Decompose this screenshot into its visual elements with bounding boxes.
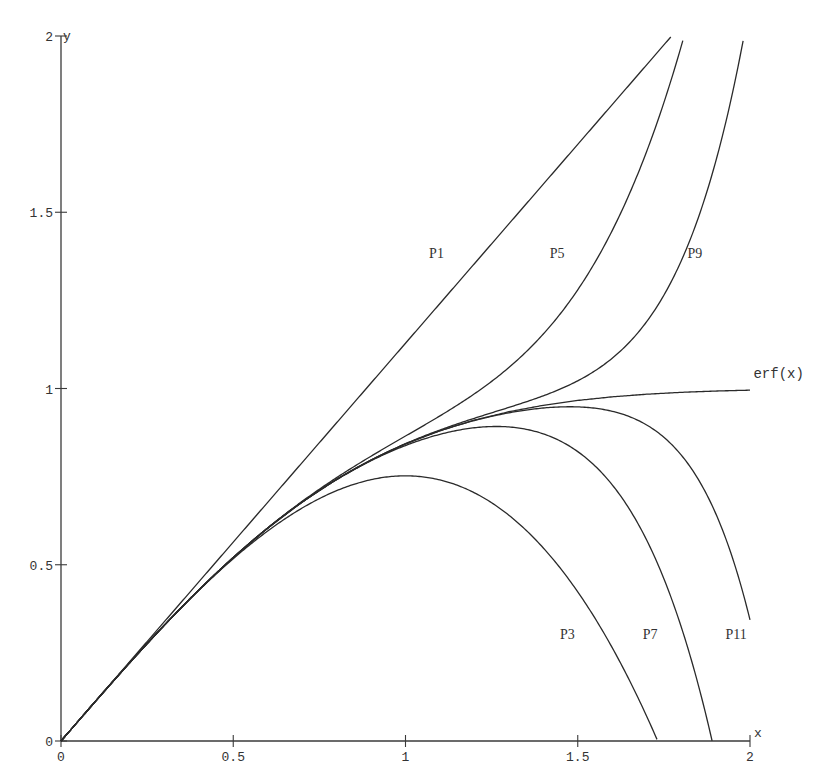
x-axis-label: x	[754, 726, 762, 741]
curve-label-erfx: erf(x)	[753, 366, 803, 382]
y-tick-label: 1.5	[30, 206, 53, 221]
curve-label-p7: P7	[643, 627, 658, 642]
y-axis-label: y	[63, 29, 71, 44]
curve-label-p11: P11	[726, 627, 747, 642]
curve-p7	[61, 426, 712, 741]
y-tick-label: 2	[45, 30, 53, 45]
curve-p11	[61, 407, 750, 741]
curve-label-p5: P5	[550, 246, 565, 261]
erf-taylor-chart: 00.511.5200.511.52xy P1P3P5P7P9P11erf(x)	[0, 0, 823, 781]
curve-label-p3: P3	[560, 627, 575, 642]
axes: 00.511.5200.511.52xy	[30, 29, 762, 765]
curve-p3	[61, 476, 657, 741]
curve-label-p1: P1	[429, 246, 444, 261]
curve-p9	[61, 41, 743, 741]
x-tick-label: 1.5	[566, 750, 589, 765]
x-tick-label: 1	[402, 750, 410, 765]
curve-erfx	[61, 390, 750, 741]
curve-label-p9: P9	[687, 246, 702, 261]
x-tick-label: 0	[57, 750, 65, 765]
curve-labels: P1P3P5P7P9P11erf(x)	[429, 246, 804, 642]
x-tick-label: 2	[746, 750, 754, 765]
y-tick-label: 1	[45, 383, 53, 398]
y-tick-label: 0.5	[30, 559, 53, 574]
y-tick-label: 0	[45, 735, 53, 750]
curve-p1	[61, 37, 671, 741]
x-tick-label: 0.5	[222, 750, 245, 765]
